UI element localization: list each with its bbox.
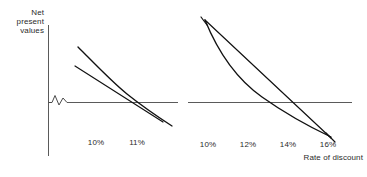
npv-figure: 10% 11% Net present values 10% 12% 14% bbox=[0, 0, 367, 177]
left-tick-label-11pct: 11% bbox=[129, 138, 145, 147]
y-axis-label-line-1: Net bbox=[31, 8, 44, 17]
right-chart-panel: 10% 12% 14% 16% Rate of discount bbox=[188, 17, 364, 162]
left-chart-panel: 10% 11% bbox=[49, 25, 179, 156]
right-tick-label-16pct: 16% bbox=[320, 140, 336, 149]
right-tick-label-12pct: 12% bbox=[240, 140, 256, 149]
right-tick-label-10pct: 10% bbox=[200, 140, 216, 149]
right-tick-label-14pct: 14% bbox=[280, 140, 296, 149]
axis-break-zigzag-icon bbox=[49, 96, 68, 106]
x-axis-title: Rate of discount bbox=[304, 153, 364, 162]
right-interpolation-line bbox=[205, 20, 331, 138]
y-axis-label-line-2: present bbox=[17, 17, 45, 26]
figure-canvas: 10% 11% Net present values 10% 12% 14% bbox=[0, 0, 367, 177]
left-npv-curve bbox=[78, 47, 172, 126]
y-axis-label: Net present values bbox=[17, 8, 45, 35]
left-tick-label-10pct: 10% bbox=[88, 138, 104, 147]
left-interpolation-line bbox=[75, 66, 163, 122]
y-axis-label-line-3: values bbox=[20, 26, 44, 35]
